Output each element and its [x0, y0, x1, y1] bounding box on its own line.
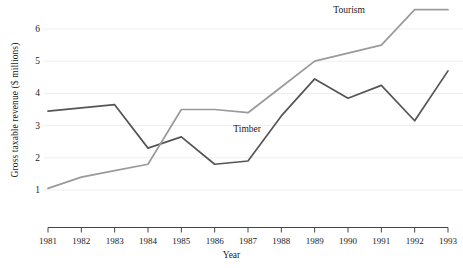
series-label-tourism: Tourism	[333, 5, 365, 15]
y-tick-label: 4	[24, 88, 40, 98]
series-label-timber: Timber	[233, 124, 261, 134]
y-tick-label: 6	[24, 24, 40, 34]
x-axis-line	[48, 228, 448, 233]
y-tick-label: 1	[24, 185, 40, 195]
plot-area	[0, 0, 463, 268]
y-tick-label: 5	[24, 56, 40, 66]
chart-figure: Gross taxable revenue ($ millions) Year …	[0, 0, 463, 268]
series-line-timber	[48, 71, 448, 164]
y-tick-label: 3	[24, 121, 40, 131]
series-lines	[48, 10, 448, 189]
y-tick-label: 2	[24, 153, 40, 163]
x-tick-label: 1993	[428, 236, 463, 246]
